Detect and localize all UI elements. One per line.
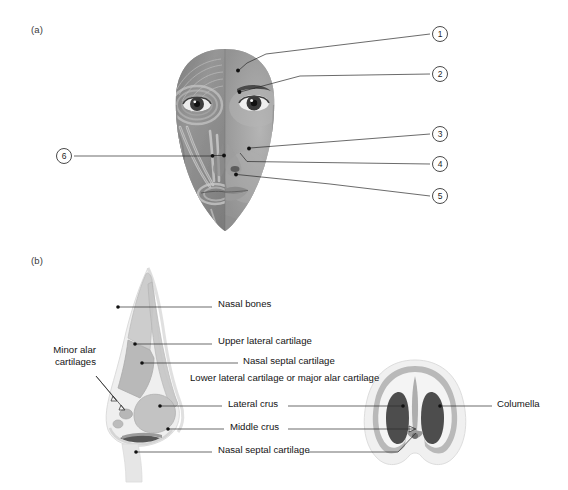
label-columella: Columella bbox=[497, 398, 540, 410]
label-lateral-crus: Lateral crus bbox=[228, 398, 278, 410]
label-nasal-septal-cartilage-upper: Nasal septal cartilage bbox=[243, 355, 335, 367]
label-nasal-bones: Nasal bones bbox=[218, 298, 271, 310]
label-nasal-septal-cartilage-lower: Nasal septal cartilage bbox=[218, 444, 310, 456]
label-middle-crus: Middle crus bbox=[230, 421, 279, 433]
label-upper-lateral-cartilage: Upper lateral cartilage bbox=[218, 335, 312, 347]
label-minor-alar-cartilages: Minor alar cartilages bbox=[32, 344, 96, 367]
anatomy-figure: (a) bbox=[0, 0, 568, 490]
panel-b-leaders bbox=[0, 0, 568, 490]
label-lower-lateral-cartilage: Lower lateral cartilage or major alar ca… bbox=[190, 372, 379, 384]
